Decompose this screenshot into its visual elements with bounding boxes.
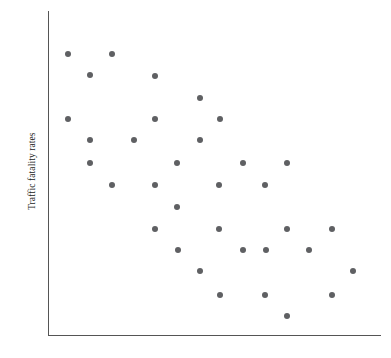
data-point <box>306 247 312 253</box>
data-point <box>263 247 269 253</box>
data-point <box>87 137 93 143</box>
data-point <box>284 313 290 319</box>
data-point <box>152 116 158 122</box>
data-point <box>175 247 181 253</box>
data-point <box>284 160 290 166</box>
data-point <box>65 116 71 122</box>
data-point <box>262 182 268 188</box>
data-point <box>152 182 158 188</box>
data-point <box>152 73 158 79</box>
data-point <box>350 268 356 274</box>
data-point <box>240 160 246 166</box>
data-point <box>87 160 93 166</box>
data-point <box>240 247 246 253</box>
data-point <box>152 226 158 232</box>
data-point <box>109 51 115 57</box>
data-point <box>87 72 93 78</box>
data-point <box>216 182 222 188</box>
data-point <box>197 137 203 143</box>
scatter-plot-figure: Traffic fatality rates <box>0 0 391 358</box>
data-point <box>262 292 268 298</box>
data-point <box>174 204 180 210</box>
data-point <box>329 226 335 232</box>
data-point <box>109 182 115 188</box>
data-point <box>197 268 203 274</box>
data-point <box>217 116 223 122</box>
data-point <box>65 51 71 57</box>
data-point <box>131 137 137 143</box>
data-point <box>329 292 335 298</box>
data-point <box>284 226 290 232</box>
data-point <box>217 292 223 298</box>
data-point <box>197 95 203 101</box>
plot-area <box>0 0 391 358</box>
data-point <box>216 226 222 232</box>
data-point <box>174 160 180 166</box>
